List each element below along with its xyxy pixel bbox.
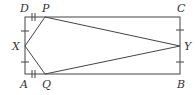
label-d: D: [19, 2, 29, 15]
label-q: Q: [42, 78, 51, 91]
label-c: C: [177, 2, 186, 15]
label-a: A: [19, 78, 28, 91]
rectangle-abcd: [25, 17, 180, 74]
label-y: Y: [184, 40, 193, 53]
label-b: B: [176, 78, 185, 91]
shape-xpyq: [25, 17, 180, 74]
label-p: P: [41, 2, 50, 15]
label-x: X: [11, 40, 21, 53]
geometry-diagram: D P C X Y A Q B: [0, 0, 195, 95]
